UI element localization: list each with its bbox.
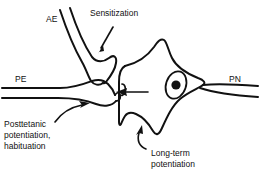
abbrev-label-pe: PE bbox=[15, 74, 27, 84]
nucleolus bbox=[171, 80, 180, 89]
annotation-ltp-line-2: potentiation bbox=[151, 159, 195, 169]
presynaptic-lower-membrane bbox=[2, 98, 116, 106]
synapse-diagram: AE PE PN Sensitization Posttetanic poten… bbox=[0, 0, 260, 178]
annotation-posttetanic-line-2: potentiation, bbox=[4, 130, 50, 140]
long-term-potentiation-leader bbox=[136, 125, 146, 149]
axon-ending-terminal bbox=[60, 8, 116, 85]
posttetanic-leader-line bbox=[55, 105, 82, 122]
axon-ending-right-wall bbox=[70, 8, 116, 83]
sensitization-leader-line bbox=[101, 27, 113, 48]
abbrev-label-ae: AE bbox=[46, 14, 58, 24]
sensitization-arrow-icon bbox=[98, 45, 104, 54]
annotation-long-term-potentiation: Long-term potentiation bbox=[151, 148, 195, 169]
annotation-posttetanic-line-1: Posttetanic bbox=[4, 119, 47, 129]
postsynaptic-cell-body bbox=[119, 39, 204, 134]
ltp-leader-line bbox=[138, 133, 146, 149]
cell-nucleus bbox=[162, 69, 190, 102]
cell-body-outline-upper bbox=[119, 39, 204, 134]
postsynaptic-axon-upper bbox=[203, 84, 258, 86]
sensitization-leader bbox=[98, 27, 113, 54]
annotation-posttetanic: Posttetanic potentiation, habituation bbox=[4, 119, 53, 151]
axon-ending-left-wall bbox=[60, 10, 103, 85]
abbrev-label-pn: PN bbox=[229, 74, 241, 84]
postsynaptic-axon-lower bbox=[200, 88, 258, 97]
postsynaptic-axon bbox=[200, 84, 258, 97]
annotation-ltp-line-1: Long-term bbox=[151, 148, 190, 158]
annotation-sensitization: Sensitization bbox=[90, 8, 138, 18]
posttetanic-leader bbox=[55, 101, 90, 122]
diagram-canvas: AE PE PN Sensitization Posttetanic poten… bbox=[0, 0, 260, 178]
annotation-posttetanic-line-3: habituation bbox=[4, 141, 46, 151]
